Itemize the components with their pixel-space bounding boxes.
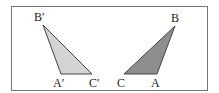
vertex-label-b: B: [171, 11, 179, 25]
vertex-label-a-prime: A′: [53, 76, 65, 90]
triangle-shape: [124, 26, 175, 74]
vertex-label-b-prime: B′: [34, 10, 45, 24]
triangle-shape: [43, 25, 92, 74]
vertex-label-c-prime: C′: [89, 76, 100, 90]
diagram-canvas: B′ A′ C′ B A C: [0, 0, 219, 93]
vertex-label-c: C: [117, 76, 125, 90]
triangle-a-prime-b-prime-c-prime: B′ A′ C′: [34, 10, 100, 90]
triangle-abc: B A C: [117, 11, 179, 90]
vertex-label-a: A: [151, 76, 160, 90]
